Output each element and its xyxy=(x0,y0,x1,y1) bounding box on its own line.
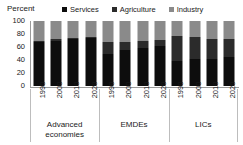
bar-segment-industry xyxy=(50,21,61,39)
stacked-bar-2020[interactable] xyxy=(224,21,235,86)
y-tick-60: 60 xyxy=(17,43,25,51)
x-tick-1990: 1990 xyxy=(30,88,47,118)
legend-swatch-industry xyxy=(169,7,174,12)
legend-item-agriculture: Agriculture xyxy=(112,6,156,14)
x-tick-2000: 2000 xyxy=(186,88,203,118)
bar-segment-industry xyxy=(33,21,44,41)
bar-segment-industry xyxy=(154,21,165,40)
plot-area xyxy=(30,21,238,86)
legend-label-agriculture: Agriculture xyxy=(120,6,156,14)
bar-segment-industry xyxy=(102,21,113,42)
bar-slot-2000[interactable] xyxy=(117,21,134,86)
bar-slot-2000[interactable] xyxy=(186,21,203,86)
stacked-bar-2000[interactable] xyxy=(50,21,61,86)
bar-segment-industry xyxy=(85,21,96,37)
stacked-bar-chart: Percent Services Agriculture Industry 02… xyxy=(0,0,243,145)
x-group-advanced-economies: 1990200020102020Advancedeconomies xyxy=(30,88,99,144)
bar-slot-2010[interactable] xyxy=(65,21,82,86)
bar-segment-agriculture xyxy=(224,39,235,57)
bar-slot-2010[interactable] xyxy=(203,21,220,86)
bar-segment-agriculture xyxy=(120,42,131,50)
x-tick-label: 2020 xyxy=(91,82,99,99)
x-tick-label: 2020 xyxy=(160,82,168,99)
bar-slot-2000[interactable] xyxy=(47,21,64,86)
group-label: Advancedeconomies xyxy=(30,120,99,139)
stacked-bar-2000[interactable] xyxy=(189,21,200,86)
stacked-bar-2010[interactable] xyxy=(68,21,79,86)
x-axis-category-band: 1990200020102020Advancedeconomies1990200… xyxy=(30,88,238,144)
x-tick-2010: 2010 xyxy=(134,88,151,118)
bar-group-emdes xyxy=(99,21,168,86)
y-axis-tick-labels: 020406080100 xyxy=(0,16,27,91)
x-tick-label: 2000 xyxy=(56,82,64,99)
x-tick-1990: 1990 xyxy=(169,88,186,118)
chart-legend: Services Agriculture Industry xyxy=(62,6,203,14)
bar-slot-1990[interactable] xyxy=(169,21,186,86)
year-tick-labels: 1990200020102020 xyxy=(169,88,238,118)
x-tick-label: 1990 xyxy=(39,82,47,99)
x-tick-2010: 2010 xyxy=(65,88,82,118)
bar-segment-agriculture xyxy=(206,39,217,59)
bar-segment-services xyxy=(50,41,61,87)
legend-item-services: Services xyxy=(62,6,99,14)
stacked-bar-1990[interactable] xyxy=(102,21,113,86)
stacked-bar-2000[interactable] xyxy=(120,21,131,86)
bar-segment-industry xyxy=(68,21,79,38)
legend-item-industry: Industry xyxy=(169,6,204,14)
x-tick-label: 2000 xyxy=(195,82,203,99)
bar-segment-agriculture xyxy=(102,42,113,54)
bar-segment-industry xyxy=(172,21,183,36)
legend-swatch-agriculture xyxy=(112,7,117,12)
x-tick-1990: 1990 xyxy=(99,88,116,118)
y-tick-0: 0 xyxy=(21,82,25,90)
x-tick-2010: 2010 xyxy=(203,88,220,118)
bar-segment-services xyxy=(120,50,131,86)
x-tick-label: 2010 xyxy=(73,82,81,99)
bar-segment-agriculture xyxy=(172,36,183,61)
bar-segment-services xyxy=(68,39,79,86)
bar-segment-industry xyxy=(120,21,131,42)
x-tick-2020: 2020 xyxy=(151,88,168,118)
x-tick-label: 2010 xyxy=(212,82,220,99)
bar-segment-industry xyxy=(137,21,148,41)
legend-label-industry: Industry xyxy=(177,6,204,14)
stacked-bar-1990[interactable] xyxy=(33,21,44,86)
bar-slot-1990[interactable] xyxy=(99,21,116,86)
bar-segment-agriculture xyxy=(137,41,148,48)
year-tick-labels: 1990200020102020 xyxy=(99,88,168,118)
bar-segment-services xyxy=(33,42,44,86)
legend-label-services: Services xyxy=(70,6,99,14)
bar-segment-industry xyxy=(206,21,217,39)
x-tick-label: 1990 xyxy=(177,82,185,99)
x-tick-label: 2000 xyxy=(125,82,133,99)
y-tick-100: 100 xyxy=(12,17,25,25)
bar-segment-services xyxy=(154,46,165,86)
x-tick-2000: 2000 xyxy=(47,88,64,118)
bar-group-advanced-economies xyxy=(30,21,99,86)
stacked-bar-2010[interactable] xyxy=(137,21,148,86)
stacked-bar-2020[interactable] xyxy=(85,21,96,86)
group-label: EMDEs xyxy=(99,120,168,130)
x-tick-label: 2020 xyxy=(229,82,237,99)
x-tick-label: 1990 xyxy=(108,82,116,99)
group-label: LICs xyxy=(169,120,238,130)
stacked-bar-2020[interactable] xyxy=(154,21,165,86)
bar-segment-services xyxy=(137,48,148,86)
y-tick-40: 40 xyxy=(17,56,25,64)
x-tick-2000: 2000 xyxy=(117,88,134,118)
bar-slot-1990[interactable] xyxy=(30,21,47,86)
y-tick-20: 20 xyxy=(17,69,25,77)
stacked-bar-2010[interactable] xyxy=(206,21,217,86)
bar-slot-2020[interactable] xyxy=(82,21,99,86)
bar-segment-agriculture xyxy=(189,37,200,60)
stacked-bar-1990[interactable] xyxy=(172,21,183,86)
x-tick-label: 2010 xyxy=(143,82,151,99)
y-tick-80: 80 xyxy=(17,30,25,38)
bar-slot-2010[interactable] xyxy=(134,21,151,86)
bar-slot-2020[interactable] xyxy=(151,21,168,86)
bar-slot-2020[interactable] xyxy=(221,21,238,86)
bar-group-lics xyxy=(169,21,238,86)
x-tick-2020: 2020 xyxy=(82,88,99,118)
x-group-lics: 1990200020102020LICs xyxy=(169,88,238,144)
bar-segment-industry xyxy=(224,21,235,39)
